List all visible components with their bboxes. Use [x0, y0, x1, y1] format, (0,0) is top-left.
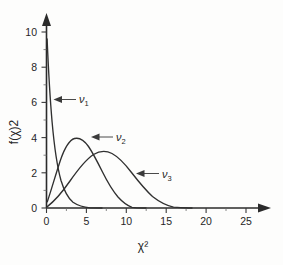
- x-tick-label-5: 5: [83, 215, 89, 227]
- y-tick-label-2: 2: [31, 167, 37, 179]
- y-axis-arrowhead: [42, 13, 51, 26]
- x-tick-label-20: 20: [200, 215, 212, 227]
- curves-group: [47, 39, 192, 208]
- x-tick-label-15: 15: [160, 215, 172, 227]
- x-axis-title: χ²: [138, 239, 148, 253]
- nu3-subscript: 3: [168, 174, 172, 183]
- nu2-arrowhead-icon: [91, 134, 100, 141]
- annotation-nu2: ν2: [91, 131, 126, 146]
- annotation-nu3: ν3: [136, 168, 172, 183]
- y-tick-label-6: 6: [31, 96, 37, 108]
- x-axis-tick-labels: 0 5 10 15 20 25: [44, 215, 252, 227]
- axes-group: [42, 13, 271, 213]
- nu1-subscript: 1: [85, 99, 89, 108]
- annotation-nu1: ν1: [54, 93, 89, 108]
- x-tick-label-10: 10: [120, 215, 132, 227]
- chart-figure: 0 2 4 6 8 10 0 5 10 15 2: [0, 0, 283, 265]
- y-tick-label-8: 8: [31, 61, 37, 73]
- x-axis-arrowhead: [258, 204, 271, 213]
- nu2-subscript: 2: [122, 137, 126, 146]
- series-label-nu3: ν3: [162, 168, 172, 183]
- y-tick-label-0: 0: [31, 202, 37, 214]
- curve-nu1: [47, 39, 102, 208]
- series-label-nu1: ν1: [79, 93, 89, 108]
- series-label-nu2: ν2: [116, 131, 126, 146]
- x-tick-label-0: 0: [44, 215, 50, 227]
- x-tick-label-25: 25: [240, 215, 252, 227]
- chi-square-plot: 0 2 4 6 8 10 0 5 10 15 2: [0, 0, 283, 265]
- y-tick-label-4: 4: [31, 132, 37, 144]
- y-tick-label-10: 10: [25, 26, 37, 38]
- y-axis-tick-labels: 0 2 4 6 8 10: [25, 26, 37, 214]
- nu3-arrowhead-icon: [136, 170, 145, 177]
- nu1-arrowhead-icon: [54, 96, 63, 103]
- y-axis-title: f(χ)2: [7, 120, 21, 145]
